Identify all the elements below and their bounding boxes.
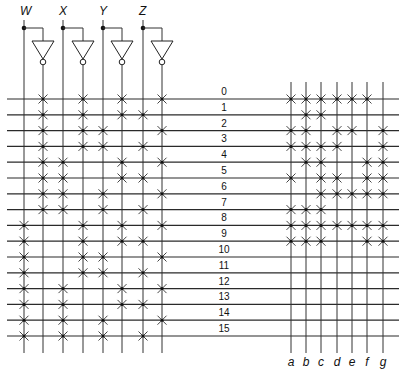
pla-diagram: WXYZ 0123456789101112131415 abcdefg bbox=[0, 0, 407, 370]
row-label: 3 bbox=[221, 133, 227, 144]
inverter-icon bbox=[72, 41, 94, 59]
inverter-bubble bbox=[80, 59, 86, 65]
row-label: 8 bbox=[221, 212, 227, 223]
output-label: g bbox=[380, 355, 387, 369]
input-label: X bbox=[58, 4, 68, 18]
row-6: 6 bbox=[7, 181, 399, 194]
input-label: Z bbox=[138, 4, 147, 18]
row-13: 13 bbox=[7, 291, 399, 304]
row-label: 10 bbox=[218, 244, 230, 255]
row-label: 15 bbox=[218, 323, 230, 334]
row-15: 15 bbox=[7, 323, 399, 336]
row-11: 11 bbox=[7, 260, 399, 273]
connection-crosses bbox=[20, 95, 388, 341]
product-term-rows: 0123456789101112131415 bbox=[7, 86, 399, 336]
row-4: 4 bbox=[7, 149, 399, 162]
row-12: 12 bbox=[7, 276, 399, 289]
output-label: a bbox=[288, 355, 295, 369]
row-10: 10 bbox=[7, 244, 399, 257]
row-label: 6 bbox=[221, 181, 227, 192]
row-14: 14 bbox=[7, 307, 399, 320]
row-1: 1 bbox=[7, 102, 399, 115]
row-2: 2 bbox=[7, 118, 399, 131]
row-3: 3 bbox=[7, 133, 399, 146]
output-label: e bbox=[349, 355, 356, 369]
row-label: 11 bbox=[219, 260, 230, 271]
row-8: 8 bbox=[7, 212, 399, 225]
row-label: 4 bbox=[221, 149, 227, 160]
row-5: 5 bbox=[7, 165, 399, 178]
row-label: 12 bbox=[218, 276, 230, 287]
row-7: 7 bbox=[7, 197, 399, 210]
row-label: 2 bbox=[221, 118, 227, 129]
output-label: b bbox=[303, 355, 310, 369]
inverter-icon bbox=[111, 41, 133, 59]
row-label: 1 bbox=[221, 102, 227, 113]
inverter-icon bbox=[32, 41, 54, 59]
row-label: 7 bbox=[221, 197, 227, 208]
inverter-icon bbox=[151, 41, 173, 59]
output-label: d bbox=[334, 355, 341, 369]
inverter-bubble bbox=[159, 59, 165, 65]
row-label: 5 bbox=[221, 165, 227, 176]
inverter-bubble bbox=[119, 59, 125, 65]
row-label: 13 bbox=[218, 291, 230, 302]
row-9: 9 bbox=[7, 228, 399, 241]
input-label: Y bbox=[99, 4, 108, 18]
row-0: 0 bbox=[7, 86, 399, 99]
row-label: 9 bbox=[221, 228, 227, 239]
output-label: c bbox=[318, 355, 324, 369]
row-label: 0 bbox=[221, 86, 227, 97]
output-label: f bbox=[365, 355, 370, 369]
input-label: W bbox=[20, 4, 33, 18]
row-label: 14 bbox=[218, 307, 230, 318]
inverter-bubble bbox=[40, 59, 46, 65]
